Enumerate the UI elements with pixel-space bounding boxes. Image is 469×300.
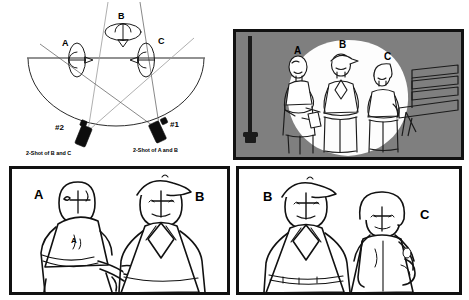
two-shot-b-and-c-frame: B C <box>236 166 462 295</box>
camera-1-number: #1 <box>170 120 179 129</box>
camera-2-icon <box>75 120 93 148</box>
action-arc <box>28 58 204 126</box>
bc-frame-label-b: B <box>263 189 272 204</box>
camera-2-number: #2 <box>55 123 64 132</box>
sightline-cam2-b <box>88 2 108 131</box>
storyboard-page: A B C #2 2-Shot of B <box>0 0 469 300</box>
bc-frame-background <box>239 169 459 292</box>
diagram-label-a: A <box>62 38 69 48</box>
subject-marker-a <box>69 43 94 77</box>
bc-frame-label-c: C <box>420 207 430 222</box>
wide-establishing-shot-frame: A B C <box>233 29 464 160</box>
overhead-camera-placement-diagram: A B C #2 2-Shot of B <box>0 0 232 166</box>
camera-1-caption: 2-Shot of A and B <box>133 147 178 153</box>
wide-frame-label-a: A <box>294 45 301 56</box>
sightline-cam1-a <box>40 44 160 131</box>
subject-marker-b <box>105 24 141 48</box>
ab-figure-a-chest-letter: A <box>71 236 77 245</box>
ab-frame-label-a: A <box>34 187 44 202</box>
ab-frame-label-b: B <box>195 189 204 204</box>
diagram-label-b: B <box>118 11 125 21</box>
sightline-cam1-b <box>140 2 160 131</box>
wide-frame-label-c: C <box>384 51 391 62</box>
two-shot-a-and-b-frame: A B A <box>9 166 230 295</box>
camera-2-caption: 2-Shot of B and C <box>26 150 71 156</box>
wide-frame-label-b: B <box>339 39 346 50</box>
diagram-label-c: C <box>158 36 165 46</box>
